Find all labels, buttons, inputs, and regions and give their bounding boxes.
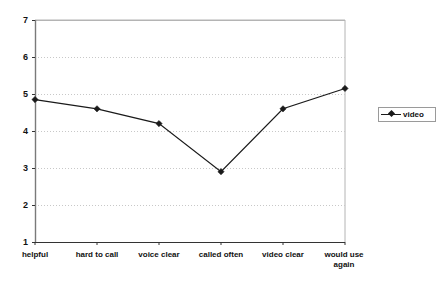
legend-line-marker-icon — [379, 109, 403, 121]
legend-label-video: video — [403, 110, 424, 120]
chart-canvas — [0, 0, 444, 284]
y-tick-label: 1 — [14, 238, 28, 247]
line-chart: 7 6 5 4 3 2 1 helpful hard to call voice… — [0, 0, 444, 284]
x-tick-label-voice-clear: voice clear — [129, 250, 189, 260]
x-tick-label-video-clear: video clear — [253, 250, 313, 260]
y-tick-label: 6 — [14, 53, 28, 62]
x-tick-label-called-often: called often — [191, 250, 251, 260]
x-tick-label-would-use-again: would use again — [313, 250, 375, 270]
y-tick-label: 4 — [14, 127, 28, 136]
chart-legend: video — [378, 107, 436, 122]
y-tick-label: 2 — [14, 201, 28, 210]
y-tick-label: 7 — [14, 16, 28, 25]
y-tick-label: 3 — [14, 164, 28, 173]
x-tick-label-helpful: helpful — [5, 250, 65, 260]
y-tick-label: 5 — [14, 90, 28, 99]
x-tick-label-hard-to-call: hard to call — [67, 250, 127, 260]
